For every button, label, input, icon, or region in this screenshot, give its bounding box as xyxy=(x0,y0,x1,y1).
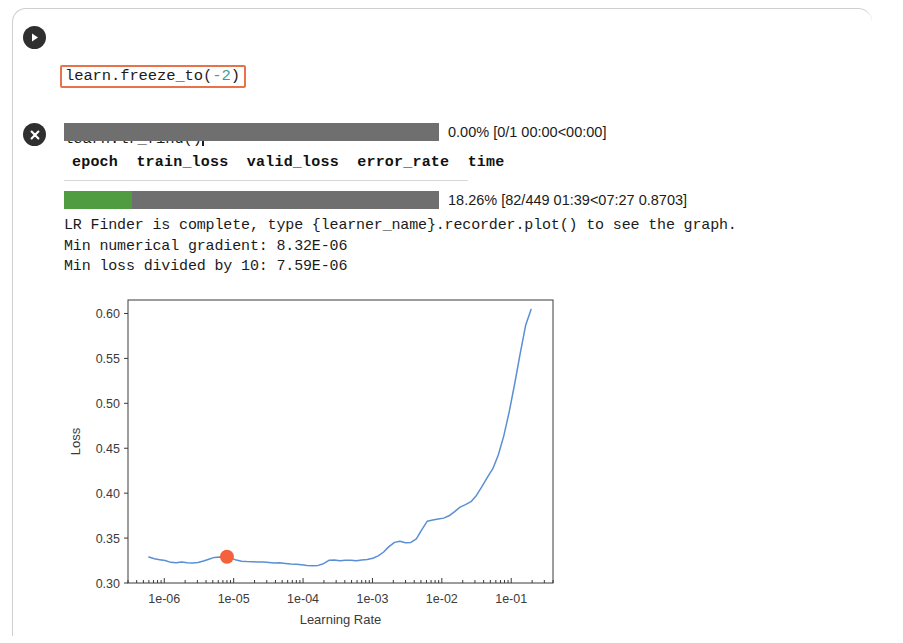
stop-cell-button[interactable] xyxy=(23,123,46,146)
suggested-lr-dot xyxy=(220,550,234,564)
y-tick-label: 0.40 xyxy=(96,487,120,501)
y-tick-label: 0.55 xyxy=(96,352,120,366)
progress-bar-epochs xyxy=(64,123,439,141)
x-axis-label: Learning Rate xyxy=(300,612,382,627)
output-line-1: LR Finder is complete, type {learner_nam… xyxy=(64,216,864,237)
y-tick-label: 0.30 xyxy=(96,577,120,591)
text-output: LR Finder is complete, type {learner_nam… xyxy=(64,216,864,278)
progress-bar-batches-fill xyxy=(64,191,132,209)
code-line-1[interactable]: learn.freeze_to(-2) xyxy=(64,66,395,87)
x-tick-label: 1e-03 xyxy=(356,592,388,606)
code-line-1-suffix: ) xyxy=(231,67,240,85)
x-tick-label: 1e-05 xyxy=(218,592,250,606)
lr-finder-chart: 0.300.350.400.450.500.550.601e-061e-051e… xyxy=(40,292,580,637)
output-line-3: Min loss divided by 10: 7.59E-06 xyxy=(64,257,864,278)
progress-bar-epochs-label: 0.00% [0/1 00:00<00:00] xyxy=(448,124,606,140)
close-icon xyxy=(29,129,41,141)
output-line-2: Min numerical gradient: 8.32E-06 xyxy=(64,237,864,258)
y-tick-label: 0.60 xyxy=(96,307,120,321)
progress-bar-batches-label: 18.26% [82/449 01:39<07:27 0.8703] xyxy=(448,192,687,208)
plot-tick-labels: 0.300.350.400.450.500.550.601e-061e-051e… xyxy=(96,307,528,606)
metrics-table-header: epoch train_loss valid_loss error_rate t… xyxy=(72,154,864,171)
y-tick-label: 0.50 xyxy=(96,397,120,411)
run-cell-button[interactable] xyxy=(23,26,46,49)
y-tick-label: 0.45 xyxy=(96,442,120,456)
loss-curve xyxy=(149,309,531,565)
progress-row-batches: 18.26% [82/449 01:39<07:27 0.8703] xyxy=(64,188,864,212)
lr-finder-plot: 0.300.350.400.450.500.550.601e-061e-051e… xyxy=(40,292,580,637)
x-tick-label: 1e-06 xyxy=(148,592,180,606)
y-axis-label: Loss xyxy=(68,427,83,455)
y-tick-label: 0.35 xyxy=(96,532,120,546)
x-tick-label: 1e-04 xyxy=(287,592,319,606)
cell-output: 0.00% [0/1 00:00<00:00] epoch train_loss… xyxy=(64,120,864,278)
suggested-lr-marker xyxy=(220,550,234,564)
play-icon xyxy=(29,32,40,43)
metrics-table-divider xyxy=(64,180,468,181)
progress-bar-batches xyxy=(64,191,439,209)
code-line-1-token: -2 xyxy=(212,67,230,85)
x-tick-label: 1e-02 xyxy=(426,592,458,606)
plot-axes-frame xyxy=(128,300,553,583)
plot-ticks xyxy=(124,313,553,583)
progress-row-epochs: 0.00% [0/1 00:00<00:00] xyxy=(64,120,864,144)
code-line-1-prefix: learn.freeze_to( xyxy=(65,67,212,85)
x-tick-label: 1e-01 xyxy=(495,592,527,606)
